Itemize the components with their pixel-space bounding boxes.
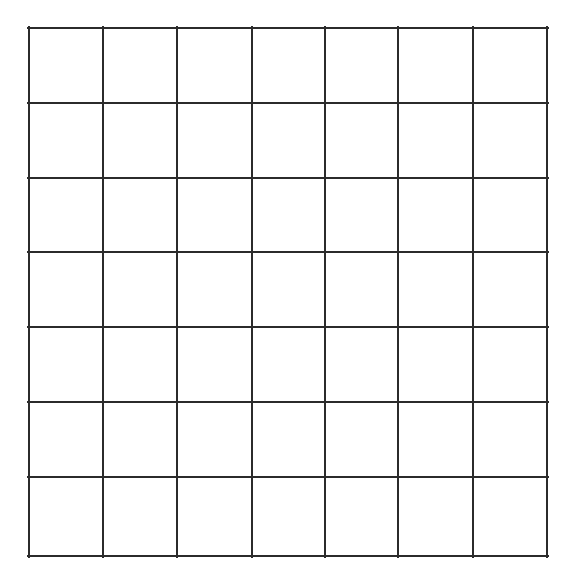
grid-cell[interactable] bbox=[473, 252, 547, 327]
grid-cell[interactable] bbox=[29, 477, 103, 556]
grid-cell[interactable] bbox=[325, 103, 398, 178]
grid-cell[interactable] bbox=[398, 477, 473, 556]
grid-cell[interactable] bbox=[29, 28, 103, 103]
grid-cell[interactable] bbox=[398, 28, 473, 103]
grid-cell[interactable] bbox=[252, 103, 325, 178]
grid-cell[interactable] bbox=[103, 402, 177, 477]
grid-svg bbox=[29, 28, 548, 556]
grid-cell[interactable] bbox=[103, 178, 177, 252]
grid-cell[interactable] bbox=[252, 402, 325, 477]
grid-cell[interactable] bbox=[252, 327, 325, 402]
grid-cell[interactable] bbox=[103, 103, 177, 178]
grid-cell[interactable] bbox=[398, 327, 473, 402]
grid-cell[interactable] bbox=[252, 252, 325, 327]
grid-cell[interactable] bbox=[29, 178, 103, 252]
grid-cell[interactable] bbox=[177, 178, 252, 252]
page-canvas bbox=[0, 0, 573, 582]
grid-cell[interactable] bbox=[29, 327, 103, 402]
grid-cell[interactable] bbox=[103, 28, 177, 103]
grid-cell[interactable] bbox=[177, 252, 252, 327]
grid-cell[interactable] bbox=[325, 327, 398, 402]
grid-cell[interactable] bbox=[177, 327, 252, 402]
grid-cell[interactable] bbox=[473, 477, 547, 556]
grid-cell[interactable] bbox=[177, 103, 252, 178]
grid-cell[interactable] bbox=[252, 178, 325, 252]
grid-cell[interactable] bbox=[473, 327, 547, 402]
grid-cell[interactable] bbox=[325, 28, 398, 103]
grid-cell[interactable] bbox=[177, 402, 252, 477]
grid-cell[interactable] bbox=[103, 252, 177, 327]
grid-cell[interactable] bbox=[325, 477, 398, 556]
grid-cell[interactable] bbox=[473, 178, 547, 252]
grid-figure bbox=[29, 28, 548, 556]
grid-cell[interactable] bbox=[103, 327, 177, 402]
grid-cell[interactable] bbox=[103, 477, 177, 556]
grid-cell[interactable] bbox=[252, 28, 325, 103]
grid-cell[interactable] bbox=[473, 402, 547, 477]
grid-cell[interactable] bbox=[177, 28, 252, 103]
grid-cell[interactable] bbox=[325, 252, 398, 327]
grid-cell[interactable] bbox=[29, 252, 103, 327]
grid-cell[interactable] bbox=[398, 178, 473, 252]
grid-cell[interactable] bbox=[177, 477, 252, 556]
grid-cell[interactable] bbox=[398, 252, 473, 327]
grid-cell[interactable] bbox=[473, 103, 547, 178]
grid-cell[interactable] bbox=[398, 402, 473, 477]
grid-cell[interactable] bbox=[325, 402, 398, 477]
grid-cell[interactable] bbox=[398, 103, 473, 178]
grid-cell[interactable] bbox=[29, 402, 103, 477]
grid-cell[interactable] bbox=[29, 103, 103, 178]
grid-cell[interactable] bbox=[473, 28, 547, 103]
grid-cell[interactable] bbox=[325, 178, 398, 252]
grid-cell[interactable] bbox=[252, 477, 325, 556]
